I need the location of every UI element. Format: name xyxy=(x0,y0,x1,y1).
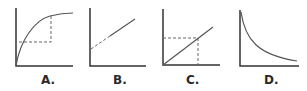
graph-a xyxy=(16,8,73,66)
graph-b-dashed-segment xyxy=(91,36,110,49)
graph-a-curve xyxy=(16,13,73,66)
graph-b-line xyxy=(110,19,135,36)
label-b: B. xyxy=(113,73,127,87)
graph-d-axes xyxy=(240,10,299,66)
graph-b xyxy=(90,8,146,66)
graph-d-curve xyxy=(241,12,297,61)
graph-c-line xyxy=(163,27,213,65)
graph-d xyxy=(240,10,299,66)
label-c: C. xyxy=(186,73,199,87)
graph-a-dashed-guides xyxy=(19,16,51,42)
graph-c-axes xyxy=(163,9,220,65)
graph-c xyxy=(163,9,220,65)
label-d: D. xyxy=(264,73,279,87)
graph-a-axes xyxy=(16,8,73,66)
label-a: A. xyxy=(41,73,55,87)
graph-b-axes xyxy=(90,8,146,66)
